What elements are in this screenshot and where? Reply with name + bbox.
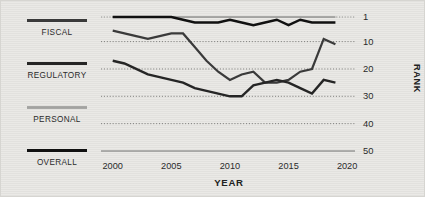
series-lines: [113, 17, 336, 96]
legend-swatch-fiscal: [27, 19, 87, 22]
x-tick-2020: 2020: [337, 161, 357, 171]
legend-label-personal: PERSONAL: [21, 115, 93, 124]
legend-item-regulatory: REGULATORY: [27, 62, 99, 80]
chart-figure: FISCAL REGULATORY PERSONAL OVERALL 11020…: [0, 0, 425, 197]
y-tick-1: 1: [363, 11, 368, 22]
legend-label-overall: OVERALL: [21, 158, 93, 167]
x-tick-2010: 2010: [220, 161, 240, 171]
legend-item-personal: PERSONAL: [27, 106, 99, 124]
x-axis-title: YEAR: [214, 177, 243, 188]
legend-label-regulatory: REGULATORY: [21, 71, 93, 80]
legend-swatch-overall: [27, 149, 87, 152]
x-tick-2000: 2000: [102, 161, 122, 171]
series-line-regulatory: [113, 61, 336, 97]
y-tick-10: 10: [363, 36, 373, 47]
legend-item-fiscal: FISCAL: [27, 19, 99, 37]
legend-label-fiscal: FISCAL: [21, 28, 93, 37]
y-tick-50: 50: [363, 145, 373, 156]
x-tick-2005: 2005: [161, 161, 181, 171]
series-line-overall: [113, 17, 336, 25]
y-axis-title: RANK: [412, 64, 422, 93]
plot-area: [101, 11, 357, 159]
legend-swatch-personal: [27, 106, 87, 109]
y-tick-40: 40: [363, 118, 373, 129]
chart-svg: [101, 11, 357, 159]
x-tick-2015: 2015: [278, 161, 298, 171]
y-tick-30: 30: [363, 90, 373, 101]
legend-item-overall: OVERALL: [27, 149, 99, 167]
legend-swatch-regulatory: [27, 62, 87, 65]
y-tick-20: 20: [363, 63, 373, 74]
